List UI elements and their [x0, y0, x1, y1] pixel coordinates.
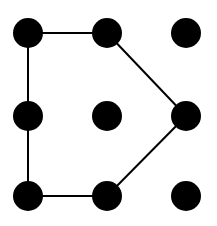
grid-dot-r2c1 — [92, 181, 122, 211]
grid-dot-r2c2 — [171, 181, 201, 211]
grid-dot-r0c0 — [13, 18, 43, 48]
grid-dot-r0c2 — [171, 18, 201, 48]
connection-line — [107, 33, 186, 116]
grid-dot-r1c0 — [13, 101, 43, 131]
grid-dots — [13, 18, 201, 211]
grid-dot-r0c1 — [92, 18, 122, 48]
grid-dot-r1c2 — [171, 101, 201, 131]
dot-pattern-diagram — [0, 0, 217, 226]
connection-line — [107, 116, 186, 196]
grid-dot-r1c1 — [92, 101, 122, 131]
pattern-svg — [0, 0, 217, 226]
grid-dot-r2c0 — [13, 181, 43, 211]
